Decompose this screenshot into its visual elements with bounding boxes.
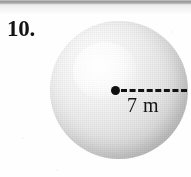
radius-measurement-label: 7 m [127, 95, 159, 115]
figure-page: 10. 7 m [0, 0, 191, 177]
sphere-center-point [111, 86, 120, 95]
scan-artifact-fade [0, 5, 191, 14]
problem-number: 10. [7, 17, 35, 40]
radius-dashed-line [121, 89, 187, 92]
